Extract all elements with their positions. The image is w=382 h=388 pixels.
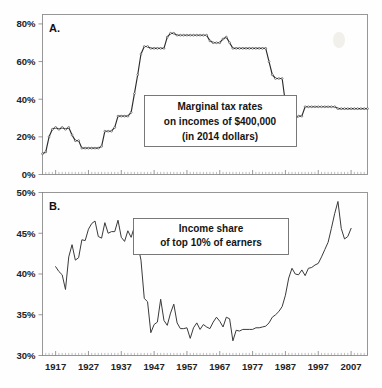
- data-point: [281, 78, 283, 80]
- data-point: [327, 106, 329, 108]
- data-point: [48, 136, 50, 138]
- data-point: [196, 34, 198, 36]
- data-point: [61, 126, 63, 128]
- data-point: [337, 108, 339, 110]
- data-point: [314, 106, 316, 108]
- panel-a: 0%20%40%60%80% A. Marginal tax rates on …: [16, 15, 368, 180]
- data-point: [183, 34, 185, 36]
- x-axis-tick-labels: 1917192719371947195719671977198719972007: [45, 361, 362, 372]
- data-point: [147, 46, 149, 48]
- data-point: [242, 47, 244, 49]
- data-point: [176, 34, 178, 36]
- x-axis-tick-label: 1997: [308, 361, 329, 372]
- data-point: [81, 147, 83, 149]
- data-point: [363, 108, 365, 110]
- data-point: [206, 34, 208, 36]
- data-point: [216, 42, 218, 44]
- data-point: [179, 34, 181, 36]
- data-point: [97, 147, 99, 149]
- data-point: [150, 47, 152, 49]
- data-point: [68, 126, 70, 128]
- data-point: [330, 106, 332, 108]
- data-point: [321, 106, 323, 108]
- y-axis-tick-label: 35%: [16, 309, 36, 320]
- chart-canvas: 0%20%40%60%80% A. Marginal tax rates on …: [0, 0, 382, 388]
- data-point: [101, 145, 103, 147]
- data-point: [124, 115, 126, 117]
- data-point: [239, 47, 241, 49]
- data-point: [301, 115, 303, 117]
- data-point: [235, 47, 237, 49]
- panel-b-y-tick-labels: 30%35%40%45%50%: [16, 187, 36, 361]
- panel-a-callout-line-2: on incomes of $400,000: [164, 116, 277, 127]
- data-point: [311, 106, 313, 108]
- data-point: [225, 36, 227, 38]
- y-axis-tick-label: 50%: [16, 187, 36, 198]
- data-point: [360, 108, 362, 110]
- data-point: [153, 47, 155, 49]
- data-point: [252, 47, 254, 49]
- data-point: [202, 34, 204, 36]
- data-point: [340, 108, 342, 110]
- data-point: [245, 47, 247, 49]
- data-point: [271, 74, 273, 76]
- data-point: [58, 128, 60, 130]
- data-point: [137, 74, 139, 76]
- data-point: [212, 42, 214, 44]
- data-point: [229, 42, 231, 44]
- data-point: [334, 106, 336, 108]
- x-axis-tick-label: 1917: [45, 361, 66, 372]
- x-axis-tick-label: 1927: [78, 361, 99, 372]
- panel-b-ticks: [39, 193, 368, 356]
- data-point: [51, 128, 53, 130]
- data-point: [350, 108, 352, 110]
- y-axis-tick-label: 45%: [16, 228, 36, 239]
- data-point: [170, 32, 172, 34]
- data-point: [166, 36, 168, 38]
- data-point: [156, 47, 158, 49]
- data-point: [114, 126, 116, 128]
- data-point: [42, 153, 44, 155]
- data-point: [219, 42, 221, 44]
- chart-figure: 0%20%40%60%80% A. Marginal tax rates on …: [0, 0, 382, 388]
- data-point: [117, 115, 119, 117]
- panel-b: 30%35%40%45%50% 191719271937194719571967…: [16, 187, 367, 372]
- data-point: [104, 130, 106, 132]
- y-axis-tick-label: 20%: [16, 131, 36, 142]
- panel-a-y-tick-labels: 0%20%40%60%80%: [16, 18, 36, 180]
- panel-a-frame: [43, 15, 368, 175]
- data-point: [94, 147, 96, 149]
- y-axis-tick-label: 40%: [16, 268, 36, 279]
- y-axis-tick-label: 40%: [16, 94, 36, 105]
- data-point: [222, 38, 224, 40]
- data-point: [127, 115, 129, 117]
- data-point: [91, 147, 93, 149]
- panel-b-callout-line-1: Income share: [179, 223, 244, 234]
- data-point: [258, 47, 260, 49]
- data-point: [110, 130, 112, 132]
- data-point: [74, 140, 76, 142]
- data-point: [45, 151, 47, 153]
- data-point: [344, 108, 346, 110]
- x-axis-tick-label: 1937: [111, 361, 132, 372]
- data-point: [186, 34, 188, 36]
- panel-b-letter: B.: [49, 200, 60, 212]
- data-point: [367, 108, 369, 110]
- data-point: [232, 47, 234, 49]
- data-point: [193, 34, 195, 36]
- data-point: [143, 46, 145, 48]
- x-axis-tick-label: 1987: [275, 361, 296, 372]
- data-point: [84, 147, 86, 149]
- data-point: [248, 47, 250, 49]
- data-point: [71, 134, 73, 136]
- data-point: [324, 106, 326, 108]
- data-point: [357, 108, 359, 110]
- panel-a-callout-line-1: Marginal tax rates: [177, 101, 262, 112]
- x-axis-tick-label: 1957: [176, 361, 197, 372]
- x-axis-tick-label: 1967: [209, 361, 230, 372]
- data-point: [55, 126, 57, 128]
- data-point: [88, 147, 90, 149]
- data-point: [317, 106, 319, 108]
- data-point: [353, 108, 355, 110]
- x-axis-tick-label: 1947: [144, 361, 165, 372]
